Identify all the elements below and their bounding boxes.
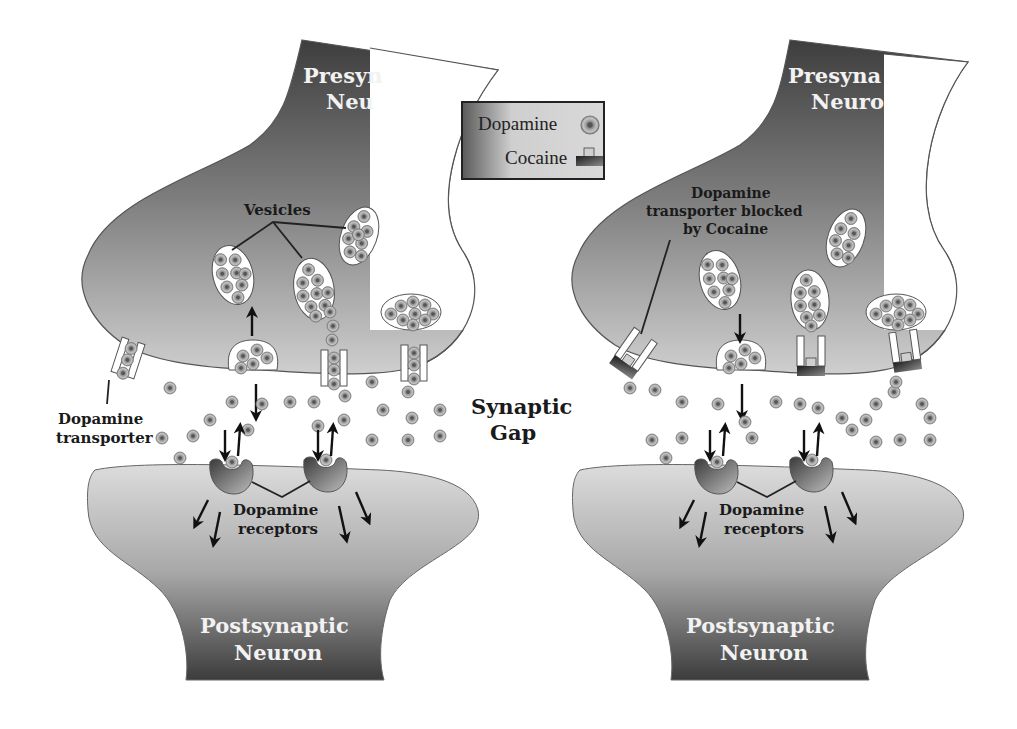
dopamine-molecule-icon xyxy=(204,414,216,426)
dopamine-molecule-icon xyxy=(739,416,751,428)
presynaptic-label-line2: Neuro xyxy=(811,89,884,114)
dopamine-molecule-icon xyxy=(860,414,872,426)
dopamine-molecule-icon xyxy=(649,384,661,396)
transporter-pointer xyxy=(107,380,109,404)
panel-normal: Presyn Neu xyxy=(56,40,498,680)
receptors-label-line1: Dopamine xyxy=(719,501,804,519)
presynaptic-label-line2: Neu xyxy=(326,89,374,114)
dopamine-molecule-icon xyxy=(894,434,906,446)
receptors-label-line2: receptors xyxy=(238,520,318,538)
receptors-label-line1: Dopamine xyxy=(233,501,318,519)
unbind-up-arrow-icon xyxy=(238,428,240,456)
dopamine-molecule-icon xyxy=(164,382,176,394)
postsynaptic-label-line2: Neuron xyxy=(720,640,808,665)
dopamine-molecule-icon xyxy=(870,436,882,448)
dopamine-molecule-icon xyxy=(366,376,378,388)
presynaptic-label-line1: Presyn xyxy=(303,63,383,88)
legend-cocaine-label: Cocaine xyxy=(505,147,567,168)
dopamine-molecule-icon xyxy=(406,412,418,424)
transporter-label-line1: Dopamine xyxy=(58,410,143,428)
dopamine-molecule-icon xyxy=(836,412,848,424)
dopamine-molecule-icon xyxy=(624,382,636,394)
dopamine-molecule-icon xyxy=(402,386,414,398)
dopamine-molecule-icon xyxy=(676,432,688,444)
dopamine-transporter xyxy=(110,337,145,382)
dopamine-molecule-icon xyxy=(174,452,186,464)
receptors-label-line2: receptors xyxy=(724,520,804,538)
presynaptic-label-line1: Presyna xyxy=(788,63,882,88)
unbind-up-arrow-icon xyxy=(723,428,725,456)
dopamine-molecule-icon xyxy=(242,424,254,436)
synaptic-dopamine-molecules xyxy=(624,376,936,464)
transporter-label-line2: transporter xyxy=(56,429,154,447)
panel-cocaine: Presyna Neuro Dopamine transporter block… xyxy=(572,40,968,680)
unbind-up-arrow-icon xyxy=(331,428,333,456)
blocked-label-line2: transporter blocked xyxy=(646,203,803,219)
dopamine-molecule-icon xyxy=(712,398,724,410)
dopamine-molecule-icon xyxy=(846,424,858,436)
synaptic-gap-label-line1: Synaptic xyxy=(471,394,572,419)
vesicles-label: Vesicles xyxy=(243,201,311,219)
dopamine-molecule-icon xyxy=(366,434,378,446)
dopamine-molecule-icon xyxy=(746,432,758,444)
dopamine-molecule-icon xyxy=(434,404,446,416)
dopamine-molecule-icon xyxy=(256,398,268,410)
dopamine-molecule-icon xyxy=(402,434,414,446)
dopamine-molecule-icon xyxy=(660,452,672,464)
presynaptic-cutaway xyxy=(370,48,498,330)
blocked-label-line3: by Cocaine xyxy=(683,221,768,237)
unbind-up-arrow-icon xyxy=(817,428,819,456)
dopamine-molecule-icon xyxy=(284,396,296,408)
dopamine-molecule-icon xyxy=(770,396,782,408)
dopamine-molecule-icon xyxy=(338,414,350,426)
postsynaptic-label-line2: Neuron xyxy=(234,640,322,665)
blocked-label-line1: Dopamine xyxy=(691,185,771,201)
synaptic-gap-label-line2: Gap xyxy=(490,420,536,445)
dopamine-molecule-icon xyxy=(339,390,351,402)
fusing-vesicle xyxy=(716,340,765,374)
dopamine-transporter xyxy=(321,350,347,390)
dopamine-molecule-icon xyxy=(187,430,199,442)
dopamine-transporter xyxy=(401,345,427,385)
dopamine-molecule-icon xyxy=(676,396,688,408)
synapse-diagram: Presyn Neu xyxy=(0,0,1017,729)
postsynaptic-label-line1: Postsynaptic xyxy=(686,613,835,638)
synaptic-dopamine-molecules xyxy=(156,376,446,464)
dopamine-molecule-icon xyxy=(581,116,599,134)
dopamine-molecule-icon xyxy=(916,398,928,410)
dopamine-molecule-icon xyxy=(308,396,320,408)
dopamine-molecule-icon xyxy=(377,404,389,416)
dopamine-molecule-icon xyxy=(890,376,902,388)
dopamine-molecule-icon xyxy=(226,396,238,408)
dopamine-molecule-icon xyxy=(434,430,446,442)
legend: Dopamine Cocaine xyxy=(462,102,604,179)
dopamine-molecule-icon xyxy=(156,432,168,444)
fusing-vesicle xyxy=(228,340,277,374)
dopamine-molecule-icon xyxy=(646,434,658,446)
dopamine-molecule-icon xyxy=(924,412,936,424)
legend-dopamine-label: Dopamine xyxy=(478,113,557,134)
dopamine-molecule-icon xyxy=(812,402,824,414)
postsynaptic-label-line1: Postsynaptic xyxy=(200,613,349,638)
dopamine-molecule-icon xyxy=(870,398,882,410)
dopamine-molecule-icon xyxy=(794,398,806,410)
dopamine-molecule-icon xyxy=(924,434,936,446)
